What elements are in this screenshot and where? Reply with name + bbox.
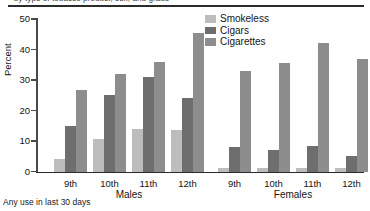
bar-females-9th-cigarettes (240, 71, 251, 172)
y-tick-20 (31, 110, 37, 112)
y-tick-label-30: 30 (9, 75, 30, 85)
x-tick-label-males-9th: 9th (51, 178, 91, 189)
y-tick-label-40: 40 (9, 45, 30, 55)
bar-males-12th-smokeless (171, 130, 182, 171)
bar-males-9th-cigars (65, 126, 76, 172)
bar-females-10th-cigars (268, 150, 279, 171)
x-tick-label-males-11th: 11th (129, 178, 169, 189)
x-tick-label-females-10th: 10th (254, 178, 294, 189)
y-tick-label-50: 50 (9, 14, 30, 24)
y-tick-0 (31, 171, 37, 173)
y-tick-30 (31, 79, 37, 81)
bar-males-9th-smokeless (54, 159, 65, 171)
bar-males-10th-cigarettes (115, 74, 126, 172)
bar-females-12th-cigarettes (357, 59, 368, 171)
x-tick-label-females-11th: 11th (293, 178, 333, 189)
bar-males-11th-cigarettes (154, 62, 165, 172)
bar-females-11th-cigarettes (318, 43, 329, 172)
bar-males-11th-cigars (143, 77, 154, 172)
y-tick-label-10: 10 (9, 136, 30, 146)
bar-males-11th-smokeless (132, 129, 143, 172)
x-tick-label-females-9th: 9th (215, 178, 255, 189)
y-tick-label-0: 0 (9, 167, 30, 177)
y-tick-50 (31, 18, 37, 20)
y-tick-10 (31, 140, 37, 142)
y-axis-line (36, 18, 38, 173)
x-axis-line (36, 172, 364, 174)
bar-males-10th-cigars (104, 95, 115, 171)
bar-females-11th-cigars (307, 146, 318, 172)
chart-plot-area: Percent 50403020100 9th10th11th12thMales… (36, 18, 364, 173)
y-tick-40 (31, 49, 37, 51)
x-tick-label-males-12th: 12th (168, 178, 208, 189)
bar-females-9th-cigars (229, 147, 240, 171)
bar-males-9th-cigarettes (76, 90, 87, 172)
chart-footnote: Any use in last 30 days (3, 197, 90, 207)
bar-males-10th-smokeless (93, 139, 104, 172)
title-divider-rule (8, 5, 364, 7)
y-tick-label-20: 20 (9, 106, 30, 116)
bar-females-12th-cigars (346, 156, 357, 171)
bar-females-10th-smokeless (257, 168, 268, 172)
panel-label-females: Females (233, 189, 353, 200)
x-tick-label-males-10th: 10th (90, 178, 130, 189)
bar-females-12th-smokeless (335, 168, 346, 171)
bar-males-12th-cigarettes (193, 33, 204, 171)
chart-title-text: by type of tobacco product, sex, and gra… (14, 0, 169, 3)
x-tick-label-females-12th: 12th (332, 178, 370, 189)
bar-females-9th-smokeless (218, 168, 229, 172)
bar-females-10th-cigarettes (279, 63, 290, 172)
bar-females-11th-smokeless (296, 168, 307, 171)
bar-males-12th-cigars (182, 98, 193, 171)
